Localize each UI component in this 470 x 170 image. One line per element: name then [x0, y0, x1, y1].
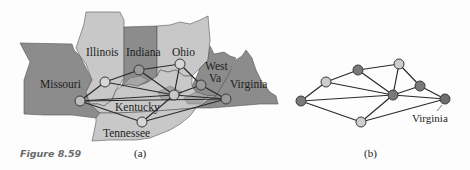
node-kentucky — [169, 90, 179, 100]
node-west-va — [196, 80, 206, 90]
edge-in-oh — [358, 64, 399, 70]
node-illinois — [321, 77, 331, 87]
label-missouri: Missouri — [40, 78, 81, 90]
label-illinois: Illinois — [86, 46, 119, 58]
map-panel-a: Missouri Illinois Indiana Ohio West Va V… — [20, 12, 278, 160]
node-ohio — [175, 59, 185, 69]
node-kentucky — [388, 90, 398, 100]
edge-mo-tn — [301, 101, 361, 122]
label-tennessee: Tennessee — [103, 127, 150, 139]
node-virginia — [440, 94, 450, 104]
edge-mo-ky — [301, 95, 393, 101]
figure-label: Figure 8.59 — [20, 148, 82, 159]
label-indiana: Indiana — [126, 46, 160, 58]
label-west-va-line2: Va — [209, 72, 221, 84]
label-virginia: Virginia — [230, 78, 267, 91]
node-tennessee — [137, 117, 147, 127]
node-tennessee — [356, 117, 366, 127]
node-west-va — [415, 81, 425, 91]
label-west-va-line1: West — [205, 60, 229, 72]
node-missouri — [75, 96, 85, 106]
node-indiana — [353, 65, 363, 75]
node-ohio — [394, 59, 404, 69]
node-illinois — [100, 77, 110, 87]
graph-panel-b: Virginia (b) — [296, 59, 450, 160]
figure-canvas: Missouri Illinois Indiana Ohio West Va V… — [0, 0, 470, 170]
virginia-callout-label: Virginia — [412, 112, 448, 124]
panel-b-caption: (b) — [364, 147, 377, 160]
node-missouri — [296, 96, 306, 106]
panel-a-caption: (a) — [134, 147, 147, 160]
virginia-callout-line — [437, 105, 442, 111]
label-ohio: Ohio — [172, 46, 195, 58]
node-indiana — [134, 65, 144, 75]
node-virginia — [221, 94, 231, 104]
